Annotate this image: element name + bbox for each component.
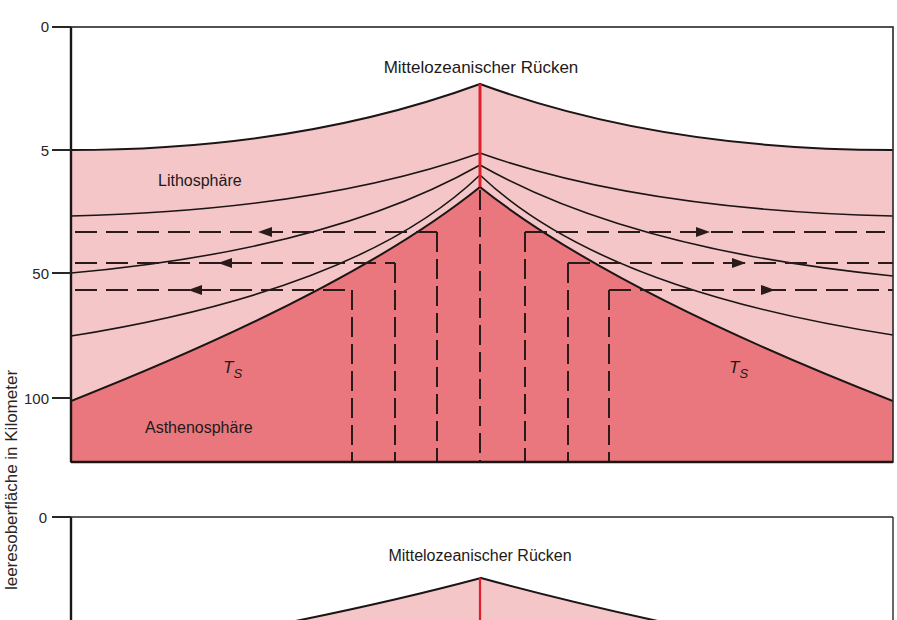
- asthenosphere-label: Asthenosphäre: [145, 419, 253, 436]
- lithosphere-region-bottom: [250, 578, 700, 620]
- y-tick-100: 100: [24, 390, 49, 407]
- lithosphere-label: Lithosphäre: [158, 172, 242, 189]
- y-tick-0-bottom: 0: [39, 509, 47, 526]
- y-axis-label: leeresoberfläche in Kilometer: [2, 300, 22, 620]
- y-tick-50: 50: [32, 265, 49, 282]
- y-ticks-top: [52, 27, 71, 398]
- ridge-label-top: Mittelozeanischer Rücken: [384, 58, 579, 77]
- diagram-canvas: 0 5 50 100 Mittelozeanischer Rücken Lith…: [0, 0, 897, 620]
- y-tick-0: 0: [41, 18, 49, 35]
- y-tick-5: 5: [41, 142, 49, 159]
- ridge-label-bottom: Mittelozeanischer Rücken: [388, 547, 571, 564]
